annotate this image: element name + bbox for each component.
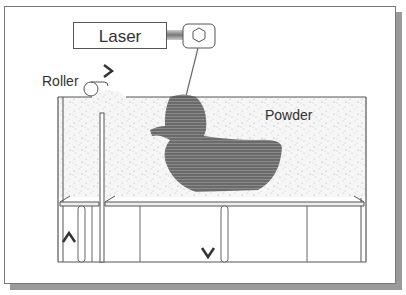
laser-box: Laser xyxy=(73,22,167,49)
roller xyxy=(84,82,98,96)
divider-wall xyxy=(100,113,104,262)
laser-beam xyxy=(186,48,198,96)
up-arrow-icon xyxy=(63,233,75,265)
roller-label: Roller xyxy=(42,73,79,89)
build-platform xyxy=(105,202,364,206)
feed-piston-rod xyxy=(78,206,85,262)
laser-connector xyxy=(167,30,183,40)
down-arrow-icon xyxy=(202,225,214,257)
right-arrow-icon xyxy=(80,65,112,77)
build-piston-rod xyxy=(221,206,228,262)
powder-label: Powder xyxy=(265,107,312,123)
laser-label: Laser xyxy=(74,27,166,47)
feed-platform xyxy=(60,202,99,206)
sls-diagram xyxy=(0,0,406,295)
